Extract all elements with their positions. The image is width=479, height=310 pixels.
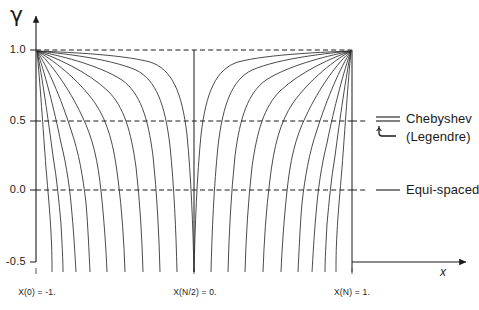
- curve-left-5: [37, 51, 125, 272]
- x-tick-label-center: X(N/2) = 0.: [152, 288, 238, 297]
- legend-marker-chebyshev: [376, 117, 400, 121]
- x-tick-label-right: X(N) = 1.: [312, 288, 392, 297]
- curve-left-10: [37, 51, 52, 272]
- legend-label-chebyshev: Chebyshev: [406, 112, 472, 125]
- curve-left-9: [37, 51, 63, 272]
- curve-right-9: [325, 51, 351, 272]
- curve-right-7: [298, 51, 351, 272]
- y-tick-label-4: -0.5: [0, 256, 26, 267]
- y-tick-marks: [30, 50, 36, 262]
- curve-left-2: [37, 51, 177, 272]
- y-axis-title: γ: [10, 4, 23, 26]
- curve-right-10: [336, 51, 351, 272]
- legend-leader-dashes: [352, 121, 367, 190]
- curve-left-7: [37, 51, 90, 272]
- y-tick-label-3: 0.0: [0, 184, 26, 195]
- legend-label-legendre: (Legendre): [406, 130, 471, 143]
- legendre-hook-icon: [379, 126, 396, 136]
- curve-family-right: [194, 51, 351, 272]
- x-tick-label-left: X(0) = -1.: [0, 288, 78, 297]
- y-tick-label-2: 0.5: [0, 115, 26, 126]
- x-axis-title: x: [440, 266, 446, 278]
- y-tick-label-1: 1.0: [0, 44, 26, 55]
- curve-right-5: [263, 51, 351, 272]
- legend-label-equispaced: Equi-spaced: [406, 183, 479, 196]
- curve-family-left: [37, 51, 194, 272]
- curve-right-2: [211, 51, 351, 272]
